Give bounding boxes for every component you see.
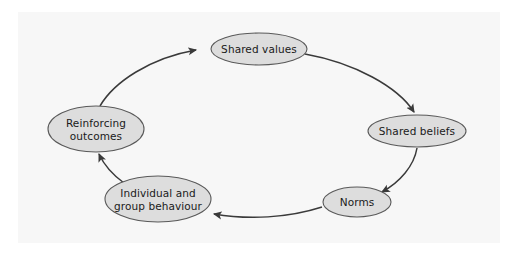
node-shared-values[interactable] [211, 33, 307, 65]
edge-behaviour-to-outcomes [99, 154, 124, 183]
node-reinforcing-outcomes[interactable] [48, 106, 144, 152]
edge-outcomes-to-values [100, 50, 196, 106]
diagram-graphics [0, 0, 523, 261]
diagram-canvas: Shared values Shared beliefs Norms Indiv… [0, 0, 523, 261]
edge-beliefs-to-norms [382, 148, 417, 192]
node-norms[interactable] [323, 187, 391, 217]
edge-values-to-beliefs [305, 54, 414, 112]
node-individual-and-group-behaviour[interactable] [105, 176, 211, 222]
node-shared-beliefs[interactable] [368, 115, 466, 147]
edge-norms-to-behaviour [214, 207, 322, 217]
